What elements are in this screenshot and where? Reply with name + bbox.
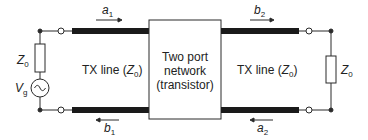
terminal-open-circle-icon [306, 28, 312, 34]
incident-wave-a1-label: a1 [102, 4, 113, 16]
network-line-2: network [149, 64, 221, 78]
load-impedance-label: Z0 [341, 64, 353, 76]
transmitted-wave-b2-label: b2 [254, 4, 265, 16]
left-tx-line-top [72, 28, 149, 34]
terminal-open-circle-icon [58, 28, 64, 34]
right-tx-line-label: TX line (Z0) [237, 64, 297, 76]
load-resistor-icon [326, 56, 336, 83]
network-box-label: Two port network (transistor) [149, 50, 221, 92]
left-tx-line-bottom [72, 107, 149, 113]
right-tx-line-bottom [221, 107, 299, 113]
network-line-1: Two port [149, 50, 221, 64]
two-port-network-diagram: Z0 Vg a1 b1 b2 a2 TX line (Z0) TX line (… [0, 0, 368, 140]
reflected-wave-b1-label: b1 [104, 122, 115, 134]
junction-dot-icon [329, 108, 333, 112]
source-resistor-icon [35, 44, 45, 72]
incident-wave-a2-label: a2 [257, 122, 268, 134]
terminal-open-circle-icon [58, 107, 64, 113]
junction-dot-icon [38, 108, 42, 112]
junction-dot-icon [38, 29, 42, 33]
junction-dot-icon [329, 29, 333, 33]
network-line-3: (transistor) [149, 78, 221, 92]
left-tx-line-label: TX line (Z0) [82, 64, 142, 76]
source-voltage-label: Vg [15, 82, 27, 94]
terminal-open-circle-icon [306, 107, 312, 113]
right-tx-line-top [221, 28, 299, 34]
source-impedance-label: Z0 [17, 54, 29, 66]
